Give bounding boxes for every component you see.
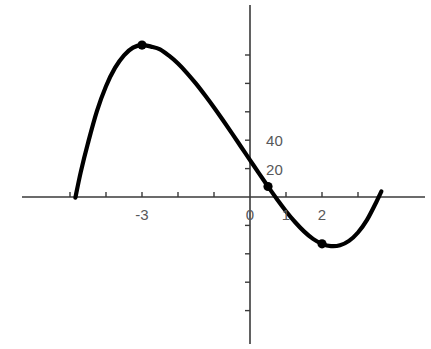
data-point-marker-local-minimum <box>317 239 326 248</box>
x-tick-label: 0 <box>246 207 255 222</box>
x-tick-label: 2 <box>318 207 327 222</box>
data-point-markers <box>137 40 326 248</box>
data-point-marker-inflection-point <box>263 182 272 191</box>
x-tick-label: 1 <box>282 207 291 222</box>
y-tick-label: 40 <box>266 133 283 148</box>
data-point-marker-local-maximum <box>137 40 146 49</box>
y-tick-label: 20 <box>266 161 283 176</box>
chart-plot-area <box>0 0 431 349</box>
x-tick-label: -3 <box>135 207 149 222</box>
axes-group <box>22 5 425 344</box>
function-curve <box>75 45 381 246</box>
chart-figure: -30122040 <box>0 0 431 349</box>
